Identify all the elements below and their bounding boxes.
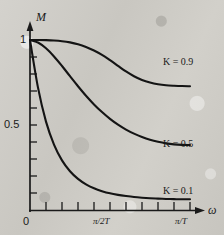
pi-over-2t-text: π/2T — [93, 216, 110, 226]
series-label-k-0-9: K = 0.9 — [163, 57, 193, 67]
y-axis-arrowhead — [27, 21, 34, 31]
pi-over-t-text: π/T — [175, 216, 187, 226]
figure-container: M ω 1 0.5 0 π/2T π/T K = 0.9 K = 0.5 K =… — [0, 0, 224, 235]
series-label-k-0-1: K = 0.1 — [163, 186, 193, 196]
series-label-k-0-5: K = 0.5 — [163, 139, 193, 149]
x-tick-label-pi-over-t: π/T — [175, 217, 187, 226]
y-axis-label: M — [36, 11, 46, 23]
x-axis-arrowhead — [195, 207, 205, 214]
x-axis-label: ω — [208, 204, 216, 216]
y-tick-label-1: 1 — [20, 34, 26, 45]
x-axis-ticks — [46, 202, 190, 210]
x-tick-label-0: 0 — [23, 216, 29, 227]
y-tick-label-0-5: 0.5 — [4, 119, 19, 130]
magnitude-response-chart — [0, 0, 224, 235]
x-tick-label-pi-over-2t: π/2T — [93, 217, 110, 226]
